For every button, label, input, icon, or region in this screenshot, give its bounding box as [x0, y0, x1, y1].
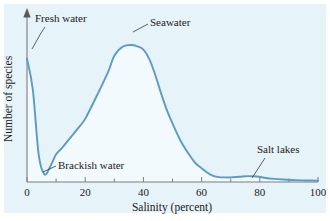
- x-axis-tick-labels: 020406080100: [24, 186, 327, 198]
- brackish-water-label: Brackish water: [58, 159, 125, 171]
- x-tick-label-60: 60: [196, 186, 208, 198]
- x-tick-label-80: 80: [254, 186, 266, 198]
- salt-lakes-label: Salt lakes: [257, 143, 299, 155]
- x-axis-title: Salinity (percent): [132, 201, 212, 214]
- x-tick-label-100: 100: [310, 186, 327, 198]
- x-tick-label-0: 0: [24, 186, 30, 198]
- y-axis-arrowhead: [23, 8, 30, 18]
- x-tick-label-40: 40: [138, 186, 150, 198]
- annotation-salt-lakes: Salt lakes: [252, 143, 299, 178]
- annotation-fresh-water: Fresh water: [32, 12, 87, 49]
- x-tick-label-20: 20: [80, 186, 92, 198]
- fresh-water-leader-line: [32, 27, 45, 49]
- y-axis-title: Number of species: [2, 55, 15, 142]
- species-salinity-chart: 020406080100 Salinity (percent) Number o…: [0, 0, 330, 221]
- seawater-label: Seawater: [150, 16, 191, 28]
- salt-lakes-leader-line: [252, 158, 265, 178]
- annotation-seawater: Seawater: [133, 16, 191, 32]
- fresh-water-label: Fresh water: [35, 12, 87, 24]
- seawater-leader-line: [133, 24, 148, 32]
- figure-container: 020406080100 Salinity (percent) Number o…: [0, 0, 330, 221]
